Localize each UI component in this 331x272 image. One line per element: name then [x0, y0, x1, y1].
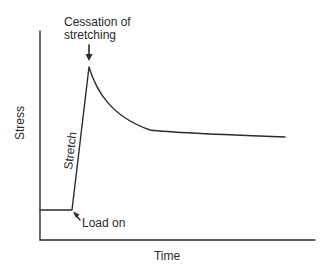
load-on-arrow-icon	[73, 212, 80, 221]
load-on-label: Load on	[82, 216, 125, 230]
cessation-arrow-icon	[86, 45, 93, 61]
stress-relaxation-diagram: Cessation of stretching Load on Stretch …	[0, 0, 331, 272]
cessation-label-line2: stretching	[64, 28, 116, 42]
x-axis-label: Time	[154, 249, 181, 263]
cessation-label-line1: Cessation of	[64, 15, 131, 29]
y-axis-label: Stress	[13, 106, 27, 140]
